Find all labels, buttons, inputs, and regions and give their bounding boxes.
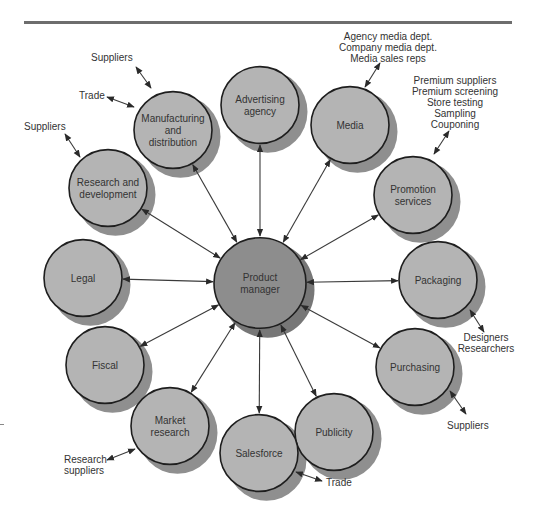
arrow-to-publicity [281,325,316,396]
node-label: Purchasing [390,362,440,373]
node-label: Packaging [415,275,462,286]
product-manager-relationship-diagram: ProductmanagerAdvertisingagencyManufactu… [0,0,537,523]
node-label: development [79,189,136,200]
external-label: Researchers [458,343,515,354]
node-legal: Legal [44,240,122,317]
external-mfg-trade: Trade [79,90,134,107]
external-label: Media sales reps [350,53,426,64]
node-research-and-development: Research anddevelopment [69,150,147,227]
external-arrow [365,63,380,87]
arrow-to-research-and-development [142,209,220,258]
external-arrow [434,131,449,154]
node-label: research [151,427,190,438]
node-label: Fiscal [92,360,118,371]
node-label: Legal [71,273,95,284]
node-label: Manufacturing [141,113,204,124]
arrow-to-promotion-services [301,215,379,260]
node-label: Media [336,120,364,131]
external-label: Trade [79,90,105,101]
node-manufacturing-and-distribution: Manufacturinganddistribution [134,92,212,169]
external-arrow [65,134,80,157]
node-market-research: Marketresearch [131,388,209,465]
node-label: distribution [149,137,197,148]
external-label: suppliers [64,465,104,476]
node-label: Publicity [315,427,352,438]
external-label: Couponing [431,119,479,130]
node-label: Market [155,415,186,426]
external-label: Store testing [427,97,483,108]
external-mfg-suppliers: Suppliers [91,52,151,88]
external-label: Agency media dept. [344,31,432,42]
external-market-research-suppliers: Researchsuppliers [64,449,135,476]
node-purchasing: Purchasing [376,329,454,406]
node-media: Media [311,87,389,164]
external-label: Premium screening [412,86,498,97]
node-publicity: Publicity [295,394,373,471]
nodes: ProductmanagerAdvertisingagencyManufactu… [44,67,477,492]
node-label: manager [240,284,280,295]
node-product-manager: Productmanager [214,238,306,329]
node-advertising-agency: Advertisingagency [221,67,299,144]
node-label: services [395,196,432,207]
arrow-to-market-research [191,323,235,392]
arrow-to-manufacturing-and-distribution [193,165,237,242]
external-label: Sampling [434,108,476,119]
node-label: Advertising [235,94,284,105]
node-promotion-services: Promotionservices [374,157,452,234]
external-label: Trade [326,477,352,488]
external-label: Designers [463,332,508,343]
node-label: agency [244,106,276,117]
arrow-to-media [283,160,330,242]
arrow-to-packaging [307,281,398,283]
external-label: Suppliers [447,420,489,431]
arrow-to-legal [123,279,213,282]
node-packaging: Packaging [399,242,477,319]
arrow-to-purchasing [301,305,380,348]
external-label: Suppliers [24,121,66,132]
node-fiscal: Fiscal [66,327,144,404]
external-label: Company media dept. [339,42,437,53]
external-promotion-contacts: Premium suppliersPremium screeningStore … [412,75,498,154]
node-label: Product [243,272,278,283]
node-label: Research and [77,177,139,188]
external-label: Research [64,454,107,465]
external-label: Suppliers [91,52,133,63]
external-arrow [107,449,135,460]
external-arrow [450,391,466,414]
external-label: Premium suppliers [414,75,497,86]
node-salesforce: Salesforce [220,415,298,492]
arrow-to-fiscal [140,305,218,346]
external-arrow [470,310,484,332]
node-label: Promotion [390,184,436,195]
external-arrow [136,67,151,88]
node-label: and [165,125,182,136]
external-rd-suppliers: Suppliers [24,121,80,157]
external-arrow [107,97,134,107]
node-label: Salesforce [235,448,283,459]
